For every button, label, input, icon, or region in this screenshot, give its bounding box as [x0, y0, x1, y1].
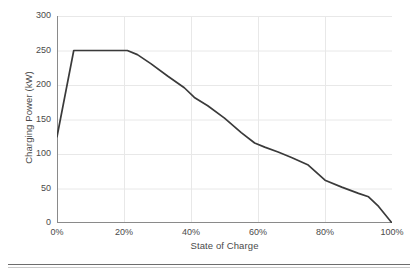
x-tick-label: 80%	[305, 227, 345, 237]
x-tick-label: 40%	[171, 227, 211, 237]
series-line-charging-power	[57, 51, 392, 224]
x-axis-title: State of Charge	[57, 240, 392, 251]
x-tick-label: 100%	[372, 227, 412, 237]
y-tick-label: 150	[15, 114, 51, 124]
y-tick-label: 200	[15, 79, 51, 89]
y-tick-label: 50	[15, 183, 51, 193]
y-tick-label: 300	[15, 10, 51, 20]
y-tick-label: 100	[15, 148, 51, 158]
x-tick-label: 60%	[238, 227, 278, 237]
chart-canvas	[57, 16, 392, 223]
footer-divider	[8, 264, 410, 265]
footer-divider-secondary	[8, 267, 410, 268]
x-tick-label: 0%	[37, 227, 77, 237]
chart-figure: Charging Power (kW) 050100150200250300 0…	[0, 0, 418, 274]
x-tick-label: 20%	[104, 227, 144, 237]
grid-lines	[57, 16, 392, 223]
y-tick-label: 0	[15, 217, 51, 227]
y-tick-label: 250	[15, 45, 51, 55]
plot-area	[57, 16, 392, 223]
